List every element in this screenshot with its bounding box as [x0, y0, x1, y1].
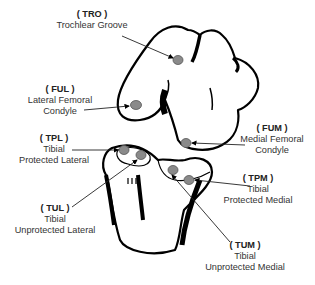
marker-tpm	[184, 176, 194, 185]
label-tul-code: ( TUL )	[10, 203, 100, 214]
label-ful-line2: Condyle	[20, 106, 100, 117]
label-ful-line1: Lateral Femoral	[20, 95, 100, 106]
label-tpm-line1: Tibial	[218, 184, 298, 195]
label-fum-code: ( FUM )	[232, 123, 312, 134]
marker-tpl	[119, 146, 129, 155]
label-fum-line2: Condyle	[232, 145, 312, 156]
label-tpm-code: ( TPM )	[218, 173, 298, 184]
marker-tum	[168, 166, 178, 175]
label-tum-line1: Tibial	[200, 251, 290, 262]
label-ful-code: ( FUL )	[20, 84, 100, 95]
label-tro-line1: Trochlear Groove	[52, 20, 132, 31]
label-tro-code: ( TRO )	[52, 9, 132, 20]
tibia-drawing	[103, 145, 212, 253]
label-tpl-code: ( TPL )	[14, 133, 94, 144]
label-tpm: ( TPM ) Tibial Protected Medial	[218, 173, 298, 206]
label-tul-line1: Tibial	[10, 214, 100, 225]
label-tpl-line1: Tibial	[14, 144, 94, 155]
label-tul-line2: Unprotected Lateral	[10, 225, 100, 236]
label-tum-code: ( TUM )	[200, 240, 290, 251]
marker-tro	[173, 56, 183, 65]
label-tpl: ( TPL ) Tibial Protected Lateral	[14, 133, 94, 166]
marker-fum	[181, 139, 191, 148]
label-tul: ( TUL ) Tibial Unprotected Lateral	[10, 203, 100, 236]
label-tro: ( TRO ) Trochlear Groove	[52, 9, 132, 31]
label-ful: ( FUL ) Lateral Femoral Condyle	[20, 84, 100, 117]
marker-tul	[136, 151, 146, 160]
label-tum: ( TUM ) Tibial Unprotected Medial	[200, 240, 290, 273]
label-tum-line2: Unprotected Medial	[200, 262, 290, 273]
label-fum-line1: Medial Femoral	[232, 134, 312, 145]
label-tpl-line2: Protected Lateral	[14, 155, 94, 166]
label-fum: ( FUM ) Medial Femoral Condyle	[232, 123, 312, 156]
marker-ful	[131, 101, 142, 110]
label-tpm-line2: Protected Medial	[218, 195, 298, 206]
